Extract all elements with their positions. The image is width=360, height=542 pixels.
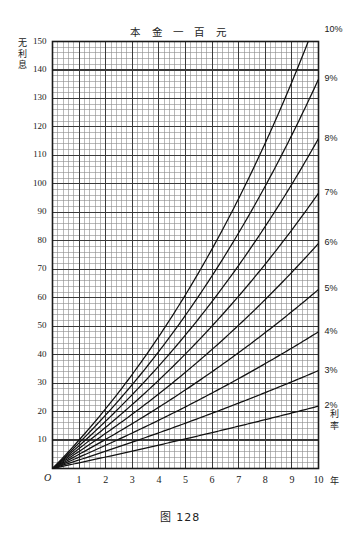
y-tick-label: 120	[17, 121, 47, 131]
figure-caption: 图 128	[0, 508, 360, 524]
rate-axis-label: 利 率	[326, 408, 342, 432]
chart-title: 本 金 一 百 元	[0, 24, 360, 39]
grid-major	[53, 42, 319, 469]
y-tick-label: 130	[17, 92, 47, 102]
y-tick-label: 150	[17, 36, 47, 46]
y-tick-label: 70	[17, 263, 47, 273]
x-tick-label: 7	[229, 474, 249, 485]
y-tick-label: 10	[17, 434, 47, 444]
rate-tag-9: 9%	[325, 73, 338, 83]
origin-label: O	[44, 472, 51, 483]
y-tick-label: 80	[17, 235, 47, 245]
x-tick-label: 4	[149, 474, 169, 485]
y-axis-label-char-1: 利	[14, 49, 30, 60]
rate-tag-5: 5%	[325, 283, 338, 293]
x-unit-label: 年	[330, 474, 339, 487]
y-tick-label: 30	[17, 377, 47, 387]
x-tick-label: 9	[282, 474, 302, 485]
x-tick-label: 1	[69, 474, 89, 485]
y-tick-label: 100	[17, 178, 47, 188]
x-tick-label: 5	[176, 474, 196, 485]
x-tick-label: 10	[309, 474, 329, 485]
y-tick-label: 40	[17, 349, 47, 359]
rate-axis-label-char-1: 率	[326, 420, 342, 432]
rate-tag-4: 4%	[325, 326, 338, 336]
x-tick-label: 3	[122, 474, 142, 485]
rate-tag-8: 8%	[325, 133, 338, 143]
y-tick-label: 90	[17, 206, 47, 216]
y-tick-label: 50	[17, 320, 47, 330]
y-tick-label: 110	[17, 149, 47, 159]
rate-tag-3: 3%	[325, 365, 338, 375]
rate-tag-2: 2%	[325, 400, 338, 410]
figure-container: 本 金 一 百 元 无 利 息 利 率 图 128 15014013012011…	[0, 0, 360, 542]
plot-svg	[0, 0, 360, 542]
rate-tag-6: 6%	[325, 237, 338, 247]
y-tick-label: 140	[17, 64, 47, 74]
x-tick-label: 6	[202, 474, 222, 485]
y-tick-label: 60	[17, 292, 47, 302]
x-tick-label: 8	[255, 474, 275, 485]
rate-tag-10: 10%	[325, 24, 343, 34]
x-tick-label: 2	[96, 474, 116, 485]
rate-tag-7: 7%	[325, 187, 338, 197]
y-tick-label: 20	[17, 406, 47, 416]
